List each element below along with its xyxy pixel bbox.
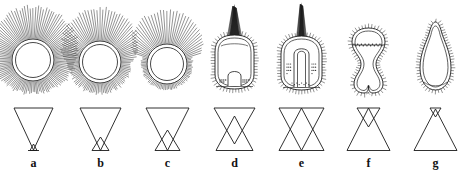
- up-triangle: [414, 109, 457, 151]
- schema-g: [402, 104, 469, 156]
- schema-a: [0, 104, 67, 156]
- panel-e: e: [268, 0, 335, 179]
- panel-label-g: g: [402, 156, 469, 171]
- panel-label-b: b: [67, 156, 134, 171]
- down-triangle: [214, 108, 255, 144]
- panel-a: a: [0, 0, 67, 179]
- panel-b: b: [67, 0, 134, 179]
- specimen-a: [0, 0, 67, 106]
- panel-label-e: e: [268, 156, 335, 171]
- inner-wall: [83, 45, 118, 80]
- figure-plate: a b: [0, 0, 471, 179]
- specimen-g: [402, 0, 469, 106]
- specimen-d: [201, 0, 268, 106]
- schema-c: [134, 104, 201, 156]
- up-triangle: [279, 108, 324, 151]
- inner-arch: [228, 72, 241, 87]
- panel-label-f: f: [335, 156, 402, 171]
- down-triangle: [80, 108, 121, 151]
- up-triangle: [347, 108, 390, 151]
- schema-e: [268, 104, 335, 156]
- panel-label-a: a: [0, 156, 67, 171]
- specimen-c: [134, 0, 201, 106]
- inner-wall: [151, 48, 184, 81]
- inner-wall: [16, 43, 51, 78]
- panel-c: c: [134, 0, 201, 179]
- schema-b: [67, 104, 134, 156]
- panel-g: g: [402, 0, 469, 179]
- down-triangle: [279, 108, 324, 151]
- panel-d: d: [201, 0, 268, 179]
- panel-f: f: [335, 0, 402, 179]
- schema-d: [201, 104, 268, 156]
- inner-loop-outer: [294, 49, 309, 87]
- panel-label-c: c: [134, 156, 201, 171]
- apical-tuft-icon: [228, 4, 242, 36]
- specimen-b: [67, 0, 134, 106]
- schema-f: [335, 104, 402, 156]
- specimen-e: [268, 0, 335, 106]
- panel-label-d: d: [201, 156, 268, 171]
- specimen-f: [335, 0, 402, 106]
